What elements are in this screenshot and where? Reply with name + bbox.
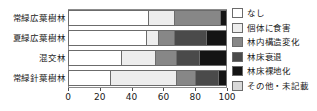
bar-segment bbox=[69, 11, 148, 25]
stacked-bar-chart: 常緑広葉樹林夏緑広葉樹林混交林常緑針葉樹林 020406080100 なし個体に… bbox=[0, 0, 317, 111]
legend-item: なし bbox=[232, 6, 317, 21]
bar-segment bbox=[69, 51, 121, 65]
bar-segment bbox=[148, 11, 175, 25]
bar-segment bbox=[195, 71, 219, 85]
y-axis-category-labels: 常緑広葉樹林夏緑広葉樹林混交林常緑針葉樹林 bbox=[0, 0, 66, 111]
legend-item: 林床衰退 bbox=[232, 50, 317, 65]
bar-segment bbox=[110, 71, 176, 85]
x-axis-tick-label: 100 bbox=[218, 92, 235, 103]
legend-item: その他・未記載 bbox=[232, 79, 317, 94]
legend-swatch bbox=[232, 52, 243, 62]
bar-segment bbox=[174, 31, 205, 45]
x-axis-tick bbox=[100, 88, 101, 91]
bar-segment bbox=[69, 31, 146, 45]
legend-swatch bbox=[232, 37, 243, 47]
x-axis-tick-label: 20 bbox=[94, 92, 105, 103]
bar-row bbox=[68, 30, 227, 46]
x-axis-tick bbox=[227, 88, 228, 91]
bar-row bbox=[68, 10, 227, 26]
chart-legend: なし個体に食害林内構造変化林床衰退林床裸地化その他・未記載 bbox=[232, 6, 317, 93]
bar-segment bbox=[176, 51, 200, 65]
legend-label: 林内構造変化 bbox=[247, 37, 300, 47]
legend-label: 個体に食害 bbox=[247, 23, 291, 33]
legend-item: 林床裸地化 bbox=[232, 64, 317, 79]
bar-segment bbox=[176, 71, 195, 85]
bar-segment bbox=[69, 71, 110, 85]
y-axis-label: 常緑広葉樹林 bbox=[0, 13, 66, 23]
bar-segment bbox=[146, 31, 159, 45]
legend-item: 個体に食害 bbox=[232, 21, 317, 36]
legend-label: なし bbox=[247, 8, 265, 18]
legend-label: 林床裸地化 bbox=[247, 66, 291, 76]
bar-segment bbox=[199, 51, 226, 65]
legend-item: 林内構造変化 bbox=[232, 35, 317, 50]
y-axis-label: 混交林 bbox=[0, 53, 66, 63]
bar-segment bbox=[220, 11, 226, 25]
x-axis-tick-label: 60 bbox=[158, 92, 169, 103]
x-axis-tick bbox=[195, 88, 196, 91]
x-axis-tick-label: 80 bbox=[189, 92, 200, 103]
bar-segment bbox=[218, 71, 226, 85]
legend-label: その他・未記載 bbox=[247, 81, 309, 91]
legend-label: 林床衰退 bbox=[247, 52, 282, 62]
legend-swatch bbox=[232, 23, 243, 33]
x-axis-tick bbox=[163, 88, 164, 91]
bar-segment bbox=[158, 31, 174, 45]
bar-row bbox=[68, 50, 227, 66]
legend-swatch bbox=[232, 81, 243, 91]
bar-segment bbox=[206, 31, 226, 45]
bar-segment bbox=[121, 51, 156, 65]
y-axis-label: 常緑針葉樹林 bbox=[0, 73, 66, 83]
bar-segment bbox=[155, 51, 175, 65]
bar-segment bbox=[174, 11, 220, 25]
x-axis-tick bbox=[132, 88, 133, 91]
x-axis-tick bbox=[68, 88, 69, 91]
bar-row bbox=[68, 70, 227, 86]
x-axis-tick-label: 40 bbox=[126, 92, 137, 103]
legend-swatch bbox=[232, 8, 243, 18]
legend-swatch bbox=[232, 66, 243, 76]
x-axis-tick-label: 0 bbox=[65, 92, 71, 103]
y-axis-label: 夏緑広葉樹林 bbox=[0, 33, 66, 43]
